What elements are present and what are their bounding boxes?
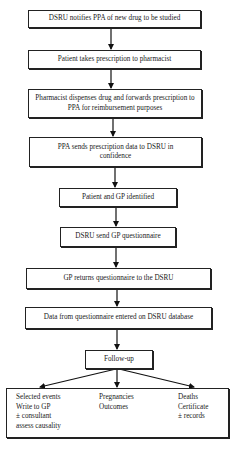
outcome-line: Pregnancies [99, 393, 134, 403]
step-pharmacist-dispenses: Pharmacist dispenses drug and forwards p… [28, 89, 202, 118]
step-text: DSRU send GP questionnaire [75, 232, 160, 242]
outcome-line: Outcomes [99, 403, 134, 413]
step-gp-returns: GP returns questionnaire to the DSRU [26, 268, 211, 289]
step-text: DSRU notifies PPA of new drug to be stud… [49, 14, 181, 24]
step-ppa-sends-data: PPA sends prescription data to DSRU in c… [29, 137, 202, 167]
outcome-line: Certificate [178, 403, 208, 413]
outcome-line: Write to GP [16, 403, 61, 413]
step-text: PPA sends prescription data to DSRU in c… [44, 143, 187, 162]
outcomes-box: Selected events Write to GP ± consultant… [6, 388, 229, 438]
outcome-selected-events: Selected events Write to GP ± consultant… [16, 393, 61, 432]
outcome-line: Selected events [16, 393, 61, 403]
step-patient-gp-identified: Patient and GP identified [59, 188, 177, 207]
outcome-line: Deaths [178, 393, 208, 403]
step-text: Patient takes prescription to pharmacist [58, 55, 171, 65]
step-text: GP returns questionnaire to the DSRU [63, 274, 173, 284]
step-text: Follow-up [104, 355, 134, 365]
step-notify-ppa: DSRU notifies PPA of new drug to be stud… [28, 10, 201, 28]
step-text: Pharmacist dispenses drug and forwards p… [32, 94, 198, 113]
step-data-entered: Data from questionnaire entered on DSRU … [25, 307, 212, 329]
step-text: Patient and GP identified [82, 193, 154, 203]
outcome-pregnancies: Pregnancies Outcomes [99, 393, 134, 412]
outcome-deaths: Deaths Certificate ± records [178, 393, 208, 422]
outcome-line: assess causality [16, 422, 61, 432]
outcome-line: ± records [178, 412, 208, 422]
step-send-questionnaire: DSRU send GP questionnaire [60, 227, 176, 247]
step-text: Data from questionnaire entered on DSRU … [44, 313, 193, 323]
step-follow-up: Follow-up [85, 350, 153, 369]
step-patient-prescription: Patient takes prescription to pharmacist [28, 50, 201, 69]
outcome-line: ± consultant [16, 412, 61, 422]
